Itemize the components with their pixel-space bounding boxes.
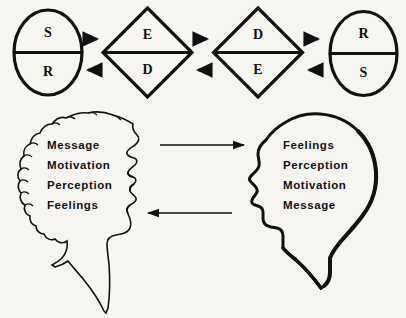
bottom-row-group: Message Motivation Perception Feelings F… [0, 108, 406, 318]
node-left-circle: S R [14, 10, 82, 95]
connector-2 [196, 39, 209, 70]
left-diamond-top-label: E [143, 27, 152, 42]
diagram-canvas: S R E D D E [0, 0, 406, 318]
left-head-word-1: Message [47, 139, 100, 151]
left-head-word-3: Perception [47, 179, 112, 191]
left-head-words: Message Motivation Perception Feelings [47, 139, 112, 211]
right-circle-top-label: R [358, 26, 369, 41]
right-head-word-2: Perception [283, 159, 348, 171]
node-right-circle: R S [330, 12, 397, 96]
right-head-words: Feelings Perception Motivation Message [283, 139, 348, 211]
left-head-word-4: Feelings [47, 199, 98, 211]
top-row-group: S R E D D E [0, 0, 406, 110]
left-circle-top-label: S [44, 25, 52, 40]
head-arrows [148, 145, 244, 213]
right-head-word-1: Feelings [283, 139, 334, 151]
right-diamond-bottom-label: E [253, 62, 262, 77]
connector-1 [86, 39, 99, 70]
right-diamond-top-label: D [253, 27, 263, 42]
left-head-word-2: Motivation [47, 159, 111, 171]
left-circle-bottom-label: R [43, 64, 54, 79]
left-diamond-bottom-label: D [142, 62, 152, 77]
right-head-word-3: Motivation [283, 179, 347, 191]
right-head-jaw-accent [283, 248, 321, 288]
right-circle-bottom-label: S [360, 65, 368, 80]
node-right-diamond: D E [214, 8, 303, 97]
connector-3 [307, 39, 320, 70]
node-left-diamond: E D [103, 8, 192, 97]
right-head-word-4: Message [283, 199, 336, 211]
